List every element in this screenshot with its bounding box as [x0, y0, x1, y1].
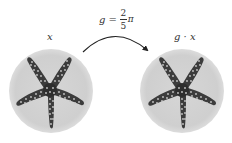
formula-numerator: 2 — [120, 8, 126, 18]
formula-pi: π — [128, 14, 134, 24]
original-starfish-disc — [9, 49, 93, 133]
formula-fraction: 2 5 — [120, 8, 127, 31]
right-label-gx: g · x — [174, 32, 196, 42]
formula-equals: = — [108, 14, 116, 25]
formula-lhs: g — [99, 14, 105, 25]
formula-denominator: 5 — [120, 21, 126, 31]
left-label-x: x — [47, 32, 53, 42]
fraction-bar — [120, 19, 127, 20]
group-element-formula: g = 2 5 π — [99, 6, 134, 32]
transform-arrow — [83, 36, 147, 52]
rotated-starfish-disc — [127, 37, 232, 143]
